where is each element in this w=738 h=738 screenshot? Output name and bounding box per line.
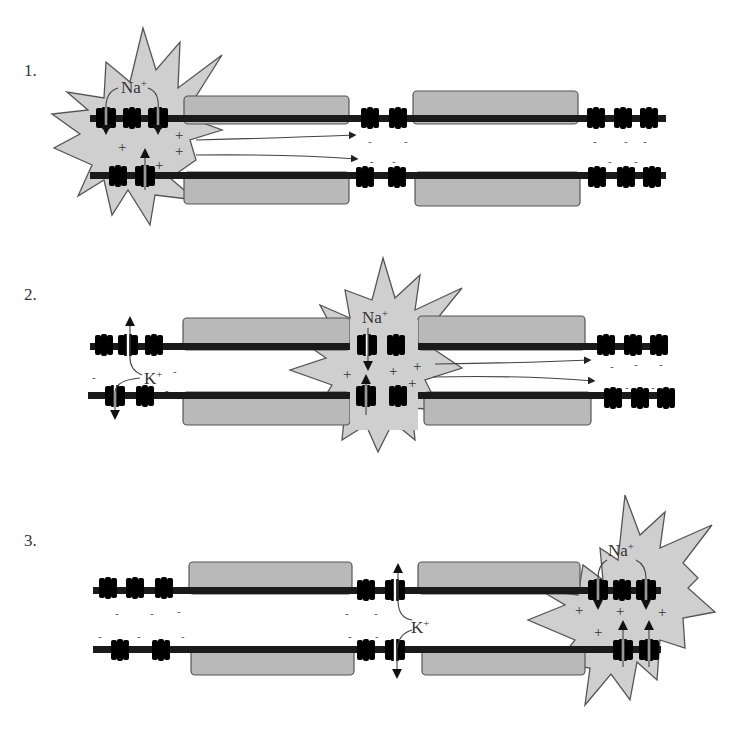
current-flow-arrow: [196, 135, 355, 140]
na-channel: [95, 334, 113, 356]
minus-charge: -: [660, 381, 664, 393]
minus-charge: -: [181, 630, 185, 642]
na-channel: [136, 385, 154, 407]
k-ion-label: K+: [411, 617, 430, 637]
minus-charge: -: [374, 607, 378, 619]
k-channel: [588, 166, 606, 188]
minus-charge: -: [370, 155, 374, 167]
plus-charge: +: [389, 363, 397, 379]
na-channel: [643, 166, 661, 188]
plus-charge: +: [343, 366, 351, 382]
minus-charge: -: [348, 630, 352, 642]
na-channel: [631, 387, 649, 409]
k-channel-open: [118, 334, 138, 356]
na-channel: [145, 334, 163, 356]
panel-3-label: 3.: [24, 531, 37, 550]
minus-charge: -: [165, 384, 169, 396]
k-channel: [389, 107, 407, 129]
minus-charge: -: [625, 381, 629, 393]
plus-charge: +: [575, 602, 583, 618]
axon-membrane-bottom: [93, 646, 661, 653]
k-channel: [604, 387, 622, 409]
minus-charge: -: [137, 630, 141, 642]
minus-charge: -: [368, 135, 372, 147]
minus-charge: -: [624, 135, 628, 147]
minus-charge: -: [392, 155, 396, 167]
minus-charge: -: [651, 381, 655, 393]
panel-2: 2. K+ - -: [24, 258, 675, 452]
plus-charge: +: [155, 157, 163, 173]
current-flow-arrow: [435, 360, 590, 364]
minus-charge: -: [643, 135, 647, 147]
na-channel: [357, 639, 375, 661]
k-channel: [613, 579, 631, 601]
na-channel: [597, 334, 615, 356]
na-channel: [152, 639, 170, 661]
panel-1-label: 1.: [24, 61, 37, 80]
na-channel: [356, 166, 374, 188]
minus-charge: -: [115, 607, 119, 619]
k-channel: [123, 107, 141, 129]
plus-charge: +: [408, 375, 416, 391]
plus-charge: +: [658, 604, 666, 620]
minus-charge: -: [593, 135, 597, 147]
k-channel: [624, 334, 642, 356]
minus-charge: -: [634, 155, 638, 167]
plus-charge: +: [118, 139, 126, 155]
minus-charge: -: [92, 371, 96, 383]
axon-membrane-bottom: [90, 172, 666, 179]
current-flow-arrow: [433, 377, 594, 382]
panel-3: 3. - - - - - - - -: [24, 495, 715, 705]
minus-charge: -: [345, 607, 349, 619]
plus-charge: +: [175, 143, 183, 159]
na-channel: [361, 107, 379, 129]
minus-charge: -: [150, 607, 154, 619]
minus-charge: -: [375, 630, 379, 642]
na-channel-open: [357, 334, 377, 356]
na-channel: [640, 107, 658, 129]
k-channel-open: [385, 639, 405, 661]
k-channel-open: [385, 579, 405, 601]
k-channel: [387, 334, 405, 356]
na-channel: [357, 579, 375, 601]
k-channel: [109, 165, 127, 187]
na-channel: [587, 107, 605, 129]
na-channel: [99, 577, 117, 599]
plus-charge: +: [413, 358, 421, 374]
axon-membrane-top: [93, 587, 661, 594]
k-channel: [388, 166, 406, 188]
minus-charge: -: [98, 630, 102, 642]
panel-2-label: 2.: [24, 285, 37, 304]
minus-charge: -: [177, 605, 181, 617]
saltatory-conduction-diagram: 1. Na+ + +: [0, 0, 738, 738]
minus-charge: -: [610, 360, 614, 372]
plus-charge: +: [175, 127, 183, 143]
plus-charge: +: [594, 624, 602, 640]
minus-charge: -: [404, 135, 408, 147]
minus-charge: -: [659, 358, 663, 370]
current-flow-arrow: [196, 155, 357, 159]
k-channel: [126, 577, 144, 599]
na-channel: [155, 577, 173, 599]
minus-charge: -: [608, 155, 612, 167]
k-channel: [111, 639, 129, 661]
k-channel: [389, 385, 407, 407]
k-channel: [614, 107, 632, 129]
na-channel: [650, 334, 668, 356]
k-ion-label: K+: [144, 368, 163, 388]
minus-charge: -: [173, 365, 177, 377]
plus-charge: +: [616, 603, 624, 619]
minus-charge: -: [634, 358, 638, 370]
panel-1: 1. Na+ + +: [24, 28, 666, 225]
na-channel: [617, 166, 635, 188]
